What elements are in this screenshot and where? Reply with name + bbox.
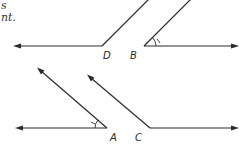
arrowhead-a-left: [15, 126, 23, 131]
angles-diagram: D B A C: [0, 0, 242, 147]
angle-arc-a: [95, 120, 98, 128]
angle-tick-a: [91, 122, 95, 124]
arrowhead-c-right: [231, 126, 239, 131]
angle-tick-b: [157, 39, 160, 43]
label-c: C: [135, 132, 142, 143]
arrowhead-b-right: [231, 44, 239, 49]
label-d: D: [103, 50, 111, 61]
arrowhead-d-left: [13, 44, 21, 49]
angle-a: A: [15, 68, 117, 144]
segment-d-upper: [102, 0, 150, 46]
label-a: A: [109, 132, 117, 143]
segment-b-upper: [144, 0, 194, 46]
angle-b: B: [130, 0, 239, 61]
label-b: B: [130, 50, 137, 61]
angle-arc-b: [153, 38, 157, 47]
ray-a-upper: [41, 71, 107, 128]
ray-c-upper: [91, 78, 150, 128]
